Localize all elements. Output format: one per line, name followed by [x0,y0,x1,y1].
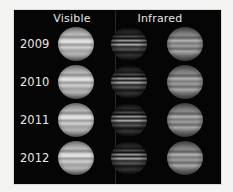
image-panel: Visible Infrared 2009 2010 2011 2012 [14,10,221,184]
jupiter-visible-image [58,103,94,137]
year-label: 2010 [20,75,49,89]
column-label-infrared: Infrared [138,12,183,25]
jupiter-visible-image [58,65,94,99]
jupiter-infrared-image [167,141,203,175]
jupiter-infrared-image [167,27,203,61]
jupiter-infrared-processed-image [111,27,147,61]
jupiter-infrared-processed-image [111,141,147,175]
year-label: 2011 [20,113,49,127]
jupiter-infrared-processed-image [111,65,147,99]
year-label: 2012 [20,151,49,165]
jupiter-visible-image [58,141,94,175]
jupiter-infrared-image [167,103,203,137]
year-label: 2009 [20,37,49,51]
column-label-visible: Visible [53,12,90,25]
jupiter-infrared-processed-image [111,103,147,137]
jupiter-visible-image [58,27,94,61]
jupiter-infrared-image [167,65,203,99]
